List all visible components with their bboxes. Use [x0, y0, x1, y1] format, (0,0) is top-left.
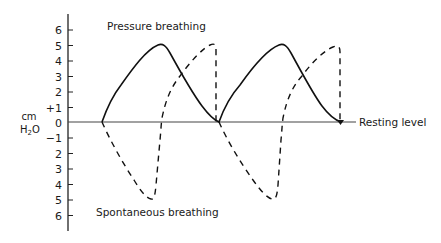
- y-tick-labels: 6 5 4 3 2 +1 0 −1 2 3 4 5 6: [46, 24, 62, 223]
- tick-label: 2: [55, 86, 62, 99]
- pressure-breathing-curve: [102, 44, 341, 122]
- tick-label: 4: [55, 179, 62, 192]
- tick-label: +1: [46, 102, 62, 115]
- unit-cm: cm: [21, 111, 36, 122]
- tick-label: 3: [55, 71, 62, 84]
- unit-h2o: H2O: [20, 124, 40, 137]
- pressure-chart: 6 5 4 3 2 +1 0 −1 2 3 4 5 6 cm H2O Resti…: [0, 0, 441, 243]
- tick-label: 0: [55, 117, 62, 130]
- tick-label: −1: [46, 132, 62, 145]
- tick-label: 6: [55, 210, 62, 223]
- tick-label: 4: [55, 55, 62, 68]
- tick-label: 5: [55, 194, 62, 207]
- tick-label: 3: [55, 163, 62, 176]
- pressure-breathing-label: Pressure breathing: [107, 20, 206, 32]
- y-axis-unit-label: cm H2O: [20, 111, 40, 137]
- tick-label: 6: [55, 24, 62, 37]
- tick-label: 5: [55, 40, 62, 53]
- y-ticks: [68, 30, 73, 216]
- tick-label: 2: [55, 148, 62, 161]
- spontaneous-breathing-label: Spontaneous breathing: [96, 206, 219, 218]
- resting-level-label: Resting level: [359, 116, 426, 128]
